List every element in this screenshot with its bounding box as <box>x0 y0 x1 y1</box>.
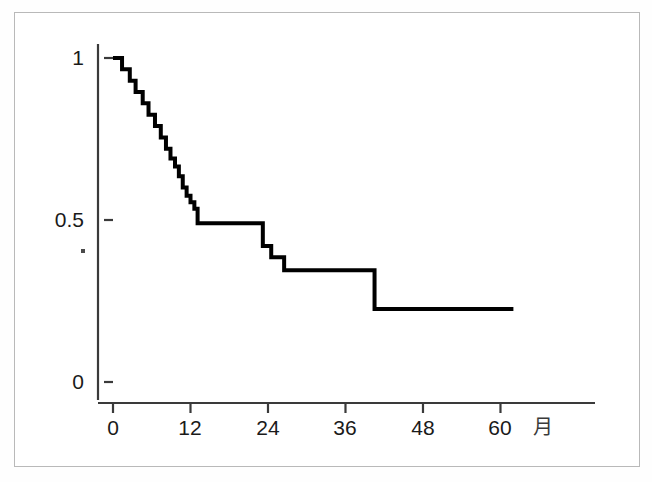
x-tick-label-48: 48 <box>403 417 443 438</box>
y-axis-tick-marks <box>104 58 113 382</box>
x-tick-label-36: 36 <box>325 417 365 438</box>
survival-curve-line <box>113 58 513 309</box>
y-tick-label-1: 1 <box>56 47 84 68</box>
y-tick-label-0: 0 <box>56 371 84 392</box>
x-tick-label-0: 0 <box>93 417 133 438</box>
x-tick-label-12: 12 <box>170 417 210 438</box>
scan-speck-artifact <box>81 249 85 253</box>
x-axis-tick-marks <box>113 403 500 413</box>
y-tick-label-0-5: 0.5 <box>28 209 84 230</box>
x-tick-label-24: 24 <box>248 417 288 438</box>
x-tick-label-60: 60 <box>480 417 520 438</box>
kaplan-meier-plot <box>0 0 652 482</box>
x-axis-title-month: 月 <box>533 417 553 437</box>
axis-lines <box>98 44 595 403</box>
